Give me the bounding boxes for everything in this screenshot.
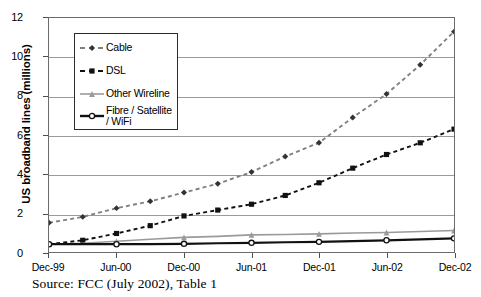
y-tick-label-4: 4 bbox=[0, 169, 23, 180]
broadband-lines-chart-figure: US broadband lines (millions) 121086420 … bbox=[0, 0, 481, 297]
y-tick-label-8: 8 bbox=[0, 90, 23, 101]
legend-key-triangle-icon bbox=[79, 87, 105, 101]
y-tick-label-6: 6 bbox=[0, 130, 23, 141]
legend-key-square-icon bbox=[79, 64, 105, 78]
legend-item-dsl[interactable]: DSL bbox=[75, 61, 177, 81]
x-tick-mark-jun-01 bbox=[252, 253, 253, 258]
x-tick-mark-dec-99 bbox=[48, 253, 49, 258]
legend-label: Fibre / Satellite / WiFi bbox=[105, 105, 172, 128]
series-dsl bbox=[49, 127, 454, 247]
legend-item-fibre-satellite-wifi[interactable]: Fibre / Satellite / WiFi bbox=[75, 106, 177, 126]
legend-label: DSL bbox=[105, 65, 126, 77]
x-tick-mark-jun-00 bbox=[116, 253, 117, 258]
y-tick-label-10: 10 bbox=[0, 51, 23, 62]
legend-item-cable[interactable]: Cable bbox=[75, 38, 177, 58]
legend-item-other-wireline[interactable]: Other Wireline bbox=[75, 84, 177, 104]
legend-key-diamond-icon bbox=[79, 41, 105, 55]
y-tick-label-12: 12 bbox=[0, 12, 23, 23]
x-tick-label-dec-99: Dec-99 bbox=[13, 261, 83, 273]
x-tick-label-jun-02: Jun-02 bbox=[352, 261, 422, 273]
x-tick-label-dec-00: Dec-00 bbox=[149, 261, 219, 273]
legend-label: Cable bbox=[105, 42, 132, 54]
x-tick-mark-dec-02 bbox=[455, 253, 456, 258]
source-caption: Source: FCC (July 2002), Table 1 bbox=[32, 276, 217, 292]
x-tick-label-dec-01: Dec-01 bbox=[284, 261, 354, 273]
x-tick-label-jun-00: Jun-00 bbox=[81, 261, 151, 273]
legend-key-circle-icon bbox=[79, 109, 105, 123]
x-tick-mark-jun-02 bbox=[387, 253, 388, 258]
legend-label: Other Wireline bbox=[105, 88, 170, 100]
x-tick-mark-dec-01 bbox=[319, 253, 320, 258]
chart-legend: CableDSLOther WirelineFibre / Satellite … bbox=[74, 33, 178, 130]
x-tick-label-jun-01: Jun-01 bbox=[217, 261, 287, 273]
x-tick-mark-dec-00 bbox=[184, 253, 185, 258]
y-tick-label-0: 0 bbox=[0, 248, 23, 259]
y-tick-label-2: 2 bbox=[0, 208, 23, 219]
x-tick-label-dec-02: Dec-02 bbox=[420, 261, 481, 273]
